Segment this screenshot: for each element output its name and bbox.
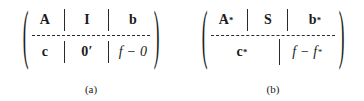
vertical-separator	[108, 41, 110, 63]
matrix-a-grid: A I b c 0′ f − 0	[32, 6, 150, 66]
cell-b-r2-c2-symbol: f − f	[292, 44, 317, 60]
cell-b-r1-c2: S	[255, 6, 281, 34]
matrix-b: ( A* S b*	[182, 6, 364, 66]
cell-b-r1-c1: A*	[211, 6, 241, 34]
panel-a: ( A I b c 0′ f − 0	[0, 0, 182, 101]
horizontal-separator	[211, 35, 335, 37]
horizontal-separator	[32, 35, 150, 37]
cell-a-r1-c1: A	[32, 6, 58, 34]
vertical-separator	[108, 9, 110, 31]
matrix-b-row-1: A* S b*	[211, 6, 335, 34]
vertical-separator	[279, 39, 281, 65]
left-parenthesis-icon: (	[23, 3, 29, 68]
vertical-separator	[64, 9, 66, 31]
cell-a-r2-c1: c	[32, 38, 58, 66]
vertical-separator	[247, 9, 249, 31]
cell-b-r1-c3: b*	[295, 6, 335, 34]
cell-a-r2-c2: 0′	[72, 38, 102, 66]
cell-b-r2-c1: c*	[211, 38, 273, 66]
vertical-separator	[64, 41, 66, 63]
cell-b-r1-c3-symbol: b	[309, 12, 317, 28]
cell-a-r1-c2: I	[72, 6, 102, 34]
cell-b-r2-c2: f − f*	[287, 38, 327, 66]
cell-a-r2-c3: f − 0	[116, 38, 150, 66]
caption-b: (b)	[182, 83, 364, 95]
figure-container: ( A I b c 0′ f − 0	[0, 0, 364, 101]
cell-b-r1-c1-symbol: A	[219, 12, 229, 28]
cell-a-r1-c3: b	[116, 6, 150, 34]
panel-b: ( A* S b*	[182, 0, 364, 101]
cell-b-r1-c2-symbol: S	[264, 12, 272, 28]
matrix-a: ( A I b c 0′ f − 0	[0, 6, 182, 66]
caption-a: (a)	[0, 83, 182, 95]
matrix-b-grid: A* S b* c*	[211, 6, 335, 66]
left-parenthesis-icon: (	[202, 3, 208, 68]
matrix-a-row-2: c 0′ f − 0	[32, 38, 150, 66]
vertical-separator	[287, 9, 289, 31]
right-parenthesis-icon: )	[154, 3, 160, 68]
matrix-a-row-1: A I b	[32, 6, 150, 34]
matrix-b-row-2: c* f − f*	[211, 38, 335, 66]
right-parenthesis-icon: )	[339, 3, 345, 68]
